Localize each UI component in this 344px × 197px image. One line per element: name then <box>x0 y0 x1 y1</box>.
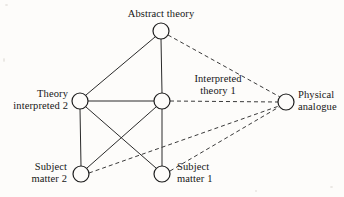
diagram-canvas: Abstract theory Theory interpreted 2 Int… <box>0 0 344 197</box>
label-theory-interpreted-2: Theory interpreted 2 <box>0 88 68 111</box>
edge-interpreted-theory-1-to-physical-analogue <box>170 101 278 102</box>
label-subject-matter-1-line2: matter 1 <box>177 173 249 185</box>
label-subject-matter-1: Subject matter 1 <box>177 161 249 184</box>
node-abstract-theory[interactable] <box>153 23 169 39</box>
scan-speck <box>5 4 8 6</box>
label-abstract-theory-line1: Abstract theory <box>101 8 221 20</box>
label-subject-matter-1-line1: Subject <box>177 161 249 173</box>
scan-speck <box>330 186 333 188</box>
node-interpreted-theory-1[interactable] <box>154 93 170 109</box>
label-interpreted-theory-1-line2: theory 1 <box>180 85 256 97</box>
node-subject-matter-2[interactable] <box>73 166 89 182</box>
label-theory-interpreted-2-line1: Theory <box>0 88 68 100</box>
label-subject-matter-2: Subject matter 2 <box>0 161 67 184</box>
scan-speck <box>255 190 257 192</box>
node-theory-interpreted-2[interactable] <box>72 93 88 109</box>
label-physical-analogue-line2: analogue <box>298 101 344 113</box>
label-interpreted-theory-1-line1: Interpreted <box>180 73 256 85</box>
label-abstract-theory: Abstract theory <box>101 8 221 20</box>
label-subject-matter-2-line2: matter 2 <box>0 173 67 185</box>
node-subject-matter-1[interactable] <box>154 166 170 182</box>
edge-abstract-theory-to-interpreted-theory-1 <box>161 39 162 93</box>
edge-abstract-theory-to-theory-interpreted-2 <box>86 37 155 95</box>
scan-speck <box>3 58 5 62</box>
label-subject-matter-2-line1: Subject <box>0 161 67 173</box>
label-theory-interpreted-2-line2: interpreted 2 <box>0 100 68 112</box>
edge-theory-interpreted-2-to-subject-matter-2 <box>80 109 81 166</box>
node-physical-analogue[interactable] <box>278 94 294 110</box>
label-physical-analogue-line1: Physical <box>298 89 344 101</box>
label-physical-analogue: Physical analogue <box>298 89 344 112</box>
label-interpreted-theory-1: Interpreted theory 1 <box>180 73 256 96</box>
